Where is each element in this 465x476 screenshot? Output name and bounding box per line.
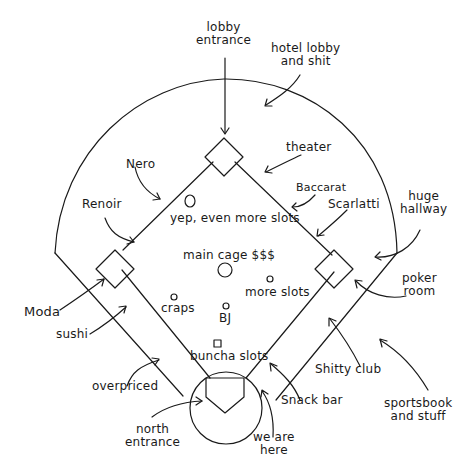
infield-line-top-left <box>123 162 213 250</box>
infield-line-top-right <box>235 162 332 255</box>
label-moda: Moda <box>24 305 60 318</box>
label-yep-even-more-slots: yep, even more slots <box>170 212 300 225</box>
buncha-slots-marker <box>214 340 221 347</box>
label-renoir: Renoir <box>82 198 122 211</box>
label-we-are-here: we arehere <box>253 431 295 457</box>
label-scarlatti: Scarlatti <box>328 198 380 211</box>
label-poker-room: pokerroom <box>402 272 437 298</box>
first-base <box>315 250 353 288</box>
label-sportsbook: sportsbookand stuff <box>384 397 452 423</box>
label-hotel-lobby: hotel lobbyand shit <box>271 42 340 68</box>
third-base <box>96 250 134 288</box>
more-slots-marker <box>267 276 273 282</box>
left-foul-line <box>55 253 183 396</box>
second-base <box>205 138 243 176</box>
craps-marker <box>171 294 177 300</box>
main-cage-marker <box>218 263 232 277</box>
home-circle <box>190 372 262 444</box>
label-north-entrance: northentrance <box>125 423 180 449</box>
label-nero: Nero <box>126 158 155 171</box>
label-craps: craps <box>161 302 195 315</box>
label-huge-hallway: hugehallway <box>400 190 447 216</box>
label-main-cage: main cage $$$ <box>183 249 275 262</box>
label-bj: BJ <box>219 312 231 325</box>
label-buncha-slots: buncha slots <box>190 350 268 363</box>
home-plate <box>206 378 244 413</box>
casino-map: lobbyentrance hotel lobbyand shit theate… <box>0 0 465 476</box>
yep-slots-marker <box>185 195 195 207</box>
right-foul-line <box>276 253 397 400</box>
label-theater: theater <box>286 141 331 154</box>
label-snack-bar: Snack bar <box>281 394 343 407</box>
bj-marker <box>223 303 229 309</box>
label-baccarat: Baccarat <box>296 181 346 194</box>
label-overpriced: overpriced <box>92 380 158 393</box>
label-shitty-club: Shitty club <box>315 363 381 376</box>
label-lobby-entrance: lobbyentrance <box>196 21 251 47</box>
outfield-wall <box>55 79 397 253</box>
label-more-slots: more slots <box>245 286 310 299</box>
label-sushi: sushi <box>56 328 88 341</box>
